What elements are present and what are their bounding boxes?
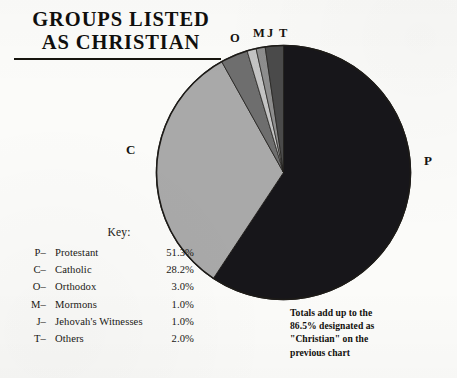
legend-percent-value: 1.0% bbox=[152, 313, 194, 330]
legend-group-name: Mormons bbox=[55, 296, 152, 313]
legend-row: P–Protestant51.3% bbox=[14, 244, 194, 261]
footnote-line-4: previous chart bbox=[290, 346, 450, 359]
pie-slice-group bbox=[156, 45, 410, 299]
chart-page: GROUPS LISTED AS CHRISTIAN P C O M J T K… bbox=[0, 0, 457, 378]
legend-row: C–Catholic28.2% bbox=[14, 261, 194, 278]
footnote-line-2: 86.5% designated as bbox=[290, 319, 450, 332]
legend-symbol: M– bbox=[14, 296, 55, 313]
legend-table-body: P–Protestant51.3%C–Catholic28.2%O–Orthod… bbox=[14, 244, 194, 347]
legend-group-name: Others bbox=[55, 330, 152, 347]
legend-percent-value: 51.3% bbox=[152, 244, 194, 261]
slice-label-jehovahs-witnesses: J bbox=[267, 26, 273, 41]
slice-label-mormons: M bbox=[253, 26, 265, 41]
legend-row: M–Mormons1.0% bbox=[14, 296, 194, 313]
footnote-line-3: "Christian" on the bbox=[290, 332, 450, 345]
legend-group-name: Jehovah's Witnesses bbox=[55, 313, 152, 330]
page-title-line-1: GROUPS LISTED bbox=[14, 8, 228, 31]
footnote-line-1: Totals add up to the bbox=[290, 306, 450, 319]
legend-symbol: O– bbox=[14, 278, 55, 295]
legend-symbol: P– bbox=[14, 244, 55, 261]
legend-table: P–Protestant51.3%C–Catholic28.2%O–Orthod… bbox=[14, 244, 194, 347]
legend-group-name: Orthodox bbox=[55, 278, 152, 295]
legend-percent-value: 1.0% bbox=[152, 296, 194, 313]
legend-symbol: C– bbox=[14, 261, 55, 278]
legend: Key: P–Protestant51.3%C–Catholic28.2%O–O… bbox=[14, 226, 194, 347]
legend-percent-value: 3.0% bbox=[152, 278, 194, 295]
legend-percent-value: 28.2% bbox=[152, 261, 194, 278]
legend-row: O–Orthodox3.0% bbox=[14, 278, 194, 295]
legend-symbol: J– bbox=[14, 313, 55, 330]
legend-group-name: Protestant bbox=[55, 244, 152, 261]
slice-label-protestant: P bbox=[424, 153, 432, 169]
slice-label-orthodox: O bbox=[230, 31, 240, 46]
legend-row: T–Others2.0% bbox=[14, 330, 194, 347]
legend-row: J–Jehovah's Witnesses1.0% bbox=[14, 313, 194, 330]
legend-symbol: T– bbox=[14, 330, 55, 347]
slice-label-catholic: C bbox=[126, 142, 135, 158]
legend-percent-value: 2.0% bbox=[152, 330, 194, 347]
slice-label-others: T bbox=[279, 26, 287, 41]
legend-group-name: Catholic bbox=[55, 261, 152, 278]
footnote-note: Totals add up to the 86.5% designated as… bbox=[290, 306, 450, 359]
legend-heading: Key: bbox=[14, 226, 194, 238]
